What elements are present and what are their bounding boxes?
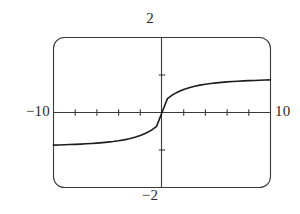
x-min-label: −10 xyxy=(12,104,50,119)
graph-screenshot: 2 −2 −10 10 xyxy=(0,0,300,214)
y-min-label: −2 xyxy=(0,188,300,203)
x-max-label: 10 xyxy=(275,104,299,119)
y-max-label: 2 xyxy=(0,11,300,26)
